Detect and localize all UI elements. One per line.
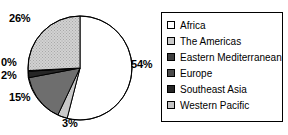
legend-item-eastern-mediterranean: Eastern Mediterranean [167,49,279,65]
legend-swatch-eastern-mediterranean [167,53,175,61]
legend-label-southeast-asia: Southeast Asia [180,84,247,95]
legend-item-southeast-asia: Southeast Asia [167,81,279,97]
legend-label-the-americas: The Americas [180,36,241,47]
legend-swatch-europe [167,69,175,77]
legend-item-the-americas: The Americas [167,33,279,49]
chart-legend: Africa The Americas Eastern Mediterranea… [161,12,283,122]
legend-swatch-africa [167,21,175,29]
legend-item-western-pacific: Western Pacific [167,97,279,113]
pie-label-the-americas: 3% [62,118,78,129]
legend-swatch-southeast-asia [167,85,175,93]
legend-label-western-pacific: Western Pacific [180,100,249,111]
legend-item-europe: Europe [167,65,279,81]
legend-item-africa: Africa [167,17,279,33]
pie-chart-figure: 26% 0% 2% 15% 3% 54% Africa The Americas… [0,0,288,135]
pie-plot-area: 26% 0% 2% 15% 3% 54% [0,0,155,135]
legend-swatch-the-americas [167,37,175,45]
legend-label-europe: Europe [180,68,212,79]
pie-label-western-pacific: 26% [9,13,30,24]
pie-label-eastern-mediterranean: 0% [1,57,17,68]
legend-swatch-western-pacific [167,101,175,109]
pie-label-africa: 54% [131,59,152,70]
pie-slice-western-pacific [28,16,80,71]
legend-label-africa: Africa [180,20,206,31]
pie-label-europe: 15% [9,92,30,103]
pie-label-southeast-asia: 2% [1,70,17,81]
legend-label-eastern-mediterranean: Eastern Mediterranean [180,52,282,63]
